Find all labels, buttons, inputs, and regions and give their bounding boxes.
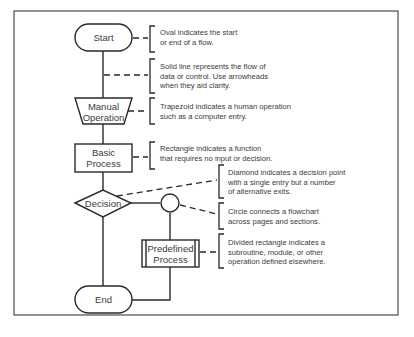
manual-operation-label-2: Operation <box>83 112 125 123</box>
basic-process-shape: Basic Process <box>75 144 132 172</box>
description-divided-rectangle: Divided rectangle indicates a subroutine… <box>228 238 326 266</box>
basic-process-label-2: Process <box>86 158 121 169</box>
description-text: with a single entry but a number <box>227 178 336 187</box>
description-text: when they aid clarity. <box>159 81 230 90</box>
description-rectangle: Rectangle indicates a function that requ… <box>160 144 272 163</box>
description-text: across pages and sections. <box>228 217 320 226</box>
basic-process-label-1: Basic <box>92 147 115 158</box>
decision-label: Decision <box>85 198 121 209</box>
description-text: Divided rectangle indicates a <box>228 238 326 247</box>
manual-operation-label-1: Manual <box>88 101 119 112</box>
description-text: that requires no input or decision. <box>160 154 272 163</box>
description-text: subroutine, module, or other <box>228 248 323 257</box>
start-shape: Start <box>75 24 132 51</box>
description-text: Solid line represents the flow of <box>160 62 266 71</box>
description-text: Oval indicates the start <box>160 28 238 37</box>
end-shape: End <box>75 286 132 313</box>
end-label: End <box>95 294 112 305</box>
diagram-frame <box>14 11 398 315</box>
connector-circle-shape <box>161 194 179 212</box>
description-text: Rectangle indicates a function <box>160 144 261 153</box>
description-text: Trapezoid indicates a human operation <box>160 102 291 111</box>
manual-operation-shape: Manual Operation <box>75 98 132 124</box>
description-text: operation defined elsewhere. <box>228 257 326 266</box>
predefined-process-shape: Predefined Process <box>142 240 199 267</box>
predefined-process-label-2: Process <box>153 254 188 265</box>
description-text: Diamond indicates a decision point <box>228 168 346 177</box>
description-text: Circle connects a flowchart <box>228 207 320 216</box>
description-text: of alternative exits. <box>228 187 291 196</box>
description-text: such as a computer entry. <box>160 112 247 121</box>
flowchart-legend-diagram: Start Manual Operation Basic Process Dec… <box>0 0 414 337</box>
predefined-process-label-1: Predefined <box>148 243 194 254</box>
start-label: Start <box>93 32 113 43</box>
description-circle: Circle connects a flowchart across pages… <box>228 207 320 226</box>
description-text: or end of a flow. <box>160 38 214 47</box>
description-text: data or control. Use arrowheads <box>160 72 268 81</box>
